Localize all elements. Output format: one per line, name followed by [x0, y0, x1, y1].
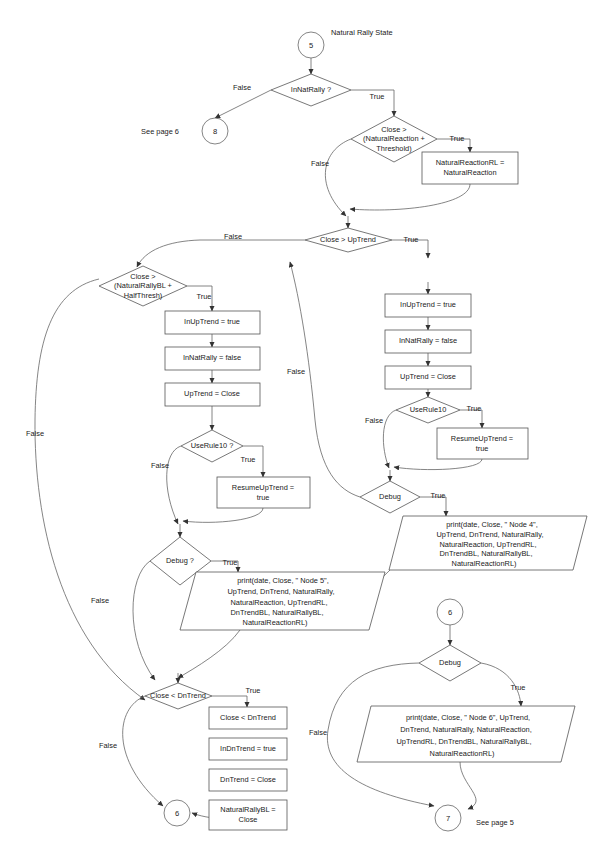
edge-label-closedntrend-true: True: [246, 686, 261, 695]
process-right-inuptrend-true: InUpTrend = true: [385, 294, 471, 317]
edge-left-debug-false: [133, 561, 155, 680]
io-node5-print-line3: NaturalReaction, UpTrendRL,: [230, 598, 327, 607]
corner-watermark: [583, 1, 597, 11]
process-right-innatrally-false-label: InNatRally = false: [399, 336, 457, 345]
connector-exit-left-label: 6: [175, 809, 179, 818]
edge-natreactionrl-merge: [350, 184, 470, 210]
connector-start: 5: [298, 32, 324, 58]
decision-debug-right-label: Debug: [379, 492, 401, 501]
io-node5-print-line4: DnTrendBL, NaturalRallyBL,: [231, 608, 324, 617]
connector-to-page6: 8: [202, 118, 228, 144]
edge-label-innatrally-false: False: [233, 83, 251, 92]
decision-debug-left-label: Debug ?: [166, 556, 194, 565]
io-node4-print-line3: NaturalReaction, UpTrendRL,: [439, 540, 536, 549]
edge-label-right-debug-false: False: [287, 367, 305, 376]
edge-label-right-userule-false: False: [365, 416, 383, 425]
io-node5-print: print(date, Close, " Node 5", UpTrend, D…: [180, 572, 385, 630]
decision-use-rule10-right: UseRule10: [396, 397, 460, 423]
decision-close-gt-naturalrallybl-line3: HalfThresh): [124, 291, 163, 300]
process-dn-indntrend-true-label: InDnTrend = true: [220, 744, 276, 753]
process-dn-dntrend-close: DnTrend = Close: [209, 769, 287, 791]
decision-use-rule10-right-label: UseRule10: [410, 405, 447, 414]
process-left-inuptrend-true-label: InUpTrend = true: [184, 317, 240, 326]
decision-close-gt-naturalrallybl-line2: (NaturalRallyBL +: [114, 281, 172, 290]
io-node5-print-line5: NaturalReactionRL): [243, 618, 308, 627]
process-left-resume-uptrend-line2: true: [257, 493, 270, 502]
io-node4-print: print(date, Close, " Node 4", UpTrend, D…: [389, 516, 587, 570]
decision-close-gt-naturalrallybl: Close > (NaturalRallyBL + HalfThresh): [99, 266, 187, 306]
process-naturalreactionrl-line1: NaturalReactionRL =: [436, 158, 505, 167]
connector-exit-left: 6: [164, 800, 190, 826]
edge-closedntrend-true: [212, 696, 247, 707]
edge-closeuptrend-false: [137, 240, 305, 267]
edge-innatrally-false: [215, 90, 271, 118]
edge-right-resume-merge: [394, 459, 482, 470]
edge-natreaction-false: [325, 139, 351, 216]
io-node5-print-line1: print(date, Close, " Node 5",: [237, 576, 329, 585]
process-left-resume-uptrend-line1: ResumeUpTrend =: [232, 483, 294, 492]
io-node4-print-line4: DnTrendBL, NaturalRallyBL,: [440, 549, 533, 558]
process-right-resume-uptrend-line1: ResumeUpTrend =: [451, 434, 513, 443]
process-right-uptrend-close-label: UpTrend = Close: [400, 372, 456, 381]
connector-mid-entry-label: 6: [448, 608, 452, 617]
process-right-inuptrend-true-label: InUpTrend = true: [400, 300, 456, 309]
connector-start-label: 5: [309, 41, 313, 50]
io-node6-print: print(date, Close, " Node 6", UpTrend, D…: [357, 706, 575, 762]
process-dn-naturalrallybl-line1: NaturalRallyBL =: [220, 805, 275, 814]
connector-mid-entry: 6: [437, 599, 463, 625]
decision-close-lt-dntrend: Close < DnTrend: [145, 683, 212, 709]
see-page-6-note: See page 6: [141, 127, 179, 136]
decision-use-rule10-left-label: UseRule10 ?: [191, 441, 234, 450]
edge-label-innatrally-true: True: [370, 92, 385, 101]
process-naturalreactionrl: NaturalReactionRL = NaturalReaction: [422, 152, 518, 184]
process-left-uptrend-close-label: UpTrend = Close: [184, 389, 240, 398]
decision-close-gt-uptrend-label: Close > UpTrend: [320, 235, 376, 244]
io-node5-print-line2: UpTrend, DnTrend, NaturalRally,: [228, 587, 335, 596]
flowchart-svg: 5 Natural Rally State InNatRally ? False…: [0, 0, 603, 861]
edge-label-closeuptrend-false: False: [224, 232, 242, 241]
edge-natrallybl-false: [35, 279, 145, 700]
process-dn-close-lt-dntrend: Close < DnTrend: [209, 707, 287, 729]
decision-debug-right: Debug: [360, 481, 420, 513]
edge-label-debug6-true: True: [511, 683, 526, 692]
connector-to-page6-label: 8: [213, 127, 217, 136]
page-title: Natural Rally State: [331, 28, 393, 37]
process-dn-indntrend-true: InDnTrend = true: [209, 738, 287, 760]
decision-close-lt-dntrend-label: Close < DnTrend: [150, 691, 206, 700]
process-dn-naturalrallybl-line2: Close: [239, 815, 258, 824]
edge-label-closedntrend-false: False: [99, 741, 117, 750]
io-node6-print-line2: DnTrend, NaturalRally, NaturalReaction,: [400, 725, 531, 734]
io-node6-print-line4: NaturalReactionRL): [430, 749, 495, 758]
decision-debug-node6: Debug: [419, 645, 481, 681]
edge-label-left-debug-true: True: [223, 558, 238, 567]
process-left-resume-uptrend: ResumeUpTrend = true: [217, 477, 310, 508]
edge-label-left-userule-true: True: [241, 455, 256, 464]
edge-node6-to-7: [460, 762, 476, 809]
process-left-inuptrend-true: InUpTrend = true: [165, 311, 260, 334]
process-right-innatrally-false: InNatRally = false: [385, 330, 471, 353]
connector-exit-right: 7: [435, 805, 461, 831]
io-node4-print-line5: NaturalReactionRL): [452, 559, 517, 568]
process-left-innatrally-false-label: InNatRally = false: [183, 353, 241, 362]
process-right-resume-uptrend: ResumeUpTrend = true: [437, 428, 528, 459]
connector-exit-right-label: 7: [446, 814, 450, 823]
decision-in-nat-rally: InNatRally ?: [271, 74, 351, 106]
edge-left-resume-merge: [183, 508, 263, 522]
see-page-5-note: See page 5: [476, 818, 514, 827]
edge-label-natrallybl-true: True: [197, 292, 212, 301]
flowchart-canvas: 5 Natural Rally State InNatRally ? False…: [0, 0, 603, 861]
edge-label-right-debug-true: True: [431, 491, 446, 500]
edge-right-userule-false: [383, 410, 396, 468]
process-naturalreactionrl-line2: NaturalReaction: [444, 168, 497, 177]
edge-closedntrend-false: [123, 696, 163, 806]
edge-label-left-debug-false: False: [91, 596, 109, 605]
process-right-resume-uptrend-line2: true: [476, 444, 489, 453]
decision-close-gt-naturalreaction-line1: Close >: [381, 125, 406, 134]
decision-in-nat-rally-label: InNatRally ?: [291, 85, 331, 94]
decision-close-gt-naturalreaction-line2: (NaturalReaction +: [363, 134, 425, 143]
edge-left-userule-false: [167, 446, 181, 524]
edge-label-left-userule-false: False: [151, 461, 169, 470]
process-left-innatrally-false: InNatRally = false: [165, 347, 260, 370]
process-dn-close-lt-dntrend-label: Close < DnTrend: [220, 713, 276, 722]
decision-debug-node6-label: Debug: [439, 658, 461, 667]
